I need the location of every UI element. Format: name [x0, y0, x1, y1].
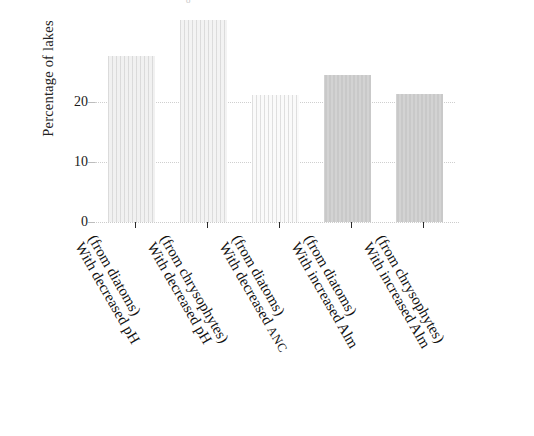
x-label-line2-5: (from chrysophytes) — [373, 233, 447, 346]
bar-2 — [180, 20, 227, 222]
axis-baseline — [91, 222, 459, 223]
x-label-line1-5: With increased Alm — [360, 240, 434, 353]
x-axis-label-4: (from diatoms)With increased Alm — [288, 232, 375, 351]
x-tickmark-4 — [351, 222, 352, 228]
x-tickmark-2 — [207, 222, 208, 228]
y-tick-label-10: 10 — [74, 154, 88, 170]
bar-3 — [252, 95, 299, 222]
x-tickmark-5 — [423, 222, 424, 228]
x-label-line2-3: (from diatoms) — [229, 233, 304, 348]
bar-1 — [108, 56, 155, 222]
x-label-line2-4: (from diatoms) — [301, 233, 374, 344]
plot-area: 01020 — [95, 12, 455, 222]
top-partial-glyph: ᵒ — [186, 0, 190, 11]
x-label-line2-1: (from diatoms) — [85, 233, 155, 340]
x-label-line1-1: With decreased pH — [72, 240, 142, 347]
y-tickmark-10 — [88, 162, 95, 163]
x-label-line2-2: (from chrysophytes) — [157, 233, 231, 346]
y-axis-title: Percentage of lakes — [40, 0, 57, 179]
y-tick-label-0: 0 — [81, 214, 88, 230]
bar-chart-figure: ᵒ Percentage of lakes 01020 (from diatom… — [0, 0, 534, 436]
x-label-line1-3: With decreased ANC — [216, 240, 291, 355]
x-tickmark-1 — [135, 222, 136, 228]
x-axis-label-3: (from diatoms)With decreased ANC — [216, 232, 305, 355]
y-tick-label-20: 20 — [74, 94, 88, 110]
x-tickmark-3 — [279, 222, 280, 228]
bar-4 — [324, 75, 371, 222]
y-tickmark-0 — [88, 222, 95, 223]
y-tickmark-20 — [88, 102, 95, 103]
bar-5 — [396, 94, 443, 222]
x-label-line1-4: With increased Alm — [288, 240, 361, 351]
x-axis-label-1: (from diatoms)With decreased pH — [72, 232, 156, 347]
x-axis-label-5: (from chrysophytes)With increased Alm — [360, 232, 448, 353]
x-label-line1-2: With decreased pH — [144, 240, 218, 353]
x-axis-label-2: (from chrysophytes)With decreased pH — [144, 232, 232, 353]
